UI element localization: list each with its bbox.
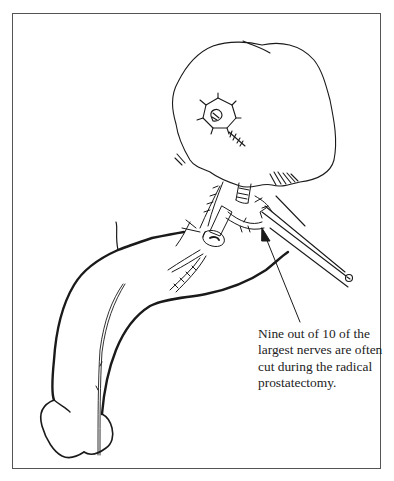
caption-line: cut during the radical [258, 359, 383, 375]
pointer-arrow-drawing [262, 228, 300, 322]
figure-caption: Nine out of 10 of the largest nerves are… [258, 326, 383, 391]
anatomy-illustration [0, 0, 394, 481]
penis-drawing [41, 222, 288, 458]
bladder-drawing [173, 41, 336, 187]
caption-line: largest nerves are often [258, 342, 383, 358]
caption-line: Nine out of 10 of the [258, 326, 383, 342]
caption-line: prostatectomy. [258, 375, 383, 391]
surgical-scissors-drawing [262, 196, 353, 287]
